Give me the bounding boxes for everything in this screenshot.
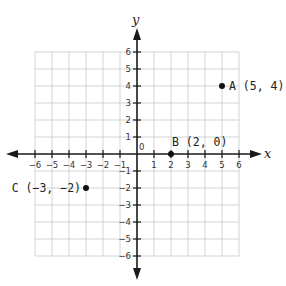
origin-label: 0 — [139, 142, 144, 152]
y-tick-label: 5 — [126, 64, 131, 74]
coordinate-plane: x y 0 −6−5−4−3−2−1123456654321−1−2−3−4−5… — [0, 0, 286, 286]
y-tick-label: 1 — [126, 132, 131, 142]
y-tick-label: −1 — [118, 166, 131, 176]
x-tick-label: 6 — [236, 160, 241, 170]
y-tick-label: 4 — [126, 81, 131, 91]
y-axis-name: y — [131, 12, 140, 27]
y-axis-down-arrow-icon — [133, 268, 141, 280]
x-tick-label: −5 — [46, 160, 59, 170]
y-tick-label: −5 — [118, 234, 131, 244]
point-c-dot — [83, 185, 89, 191]
x-tick-label: 3 — [185, 160, 190, 170]
y-tick-label: 6 — [126, 47, 131, 57]
point-b-label: B (2, 0) — [172, 135, 227, 149]
point-c-label: C (−3, −2) — [12, 181, 81, 195]
y-axis-up-arrow-icon — [133, 28, 141, 40]
y-tick-label: 2 — [126, 115, 131, 125]
point-a-label: A (5, 4) — [229, 79, 284, 93]
y-tick-label: −4 — [118, 217, 131, 227]
x-tick-label: 4 — [202, 160, 207, 170]
y-tick-label: −6 — [118, 251, 131, 261]
x-tick-label: −2 — [97, 160, 110, 170]
x-axis-left-arrow-icon — [6, 150, 18, 158]
x-tick-label: −6 — [29, 160, 42, 170]
x-tick-label: 5 — [219, 160, 224, 170]
x-tick-label: −3 — [80, 160, 93, 170]
y-tick-label: 3 — [126, 98, 131, 108]
y-tick-label: −2 — [118, 183, 131, 193]
x-axis-right-arrow-icon — [250, 150, 262, 158]
point-a-dot — [219, 83, 225, 89]
x-tick-label: 1 — [151, 160, 156, 170]
y-tick-label: −3 — [118, 200, 131, 210]
point-b-dot — [168, 151, 174, 157]
x-tick-label: 2 — [168, 160, 173, 170]
x-tick-label: −4 — [63, 160, 76, 170]
x-axis-name: x — [264, 146, 272, 161]
